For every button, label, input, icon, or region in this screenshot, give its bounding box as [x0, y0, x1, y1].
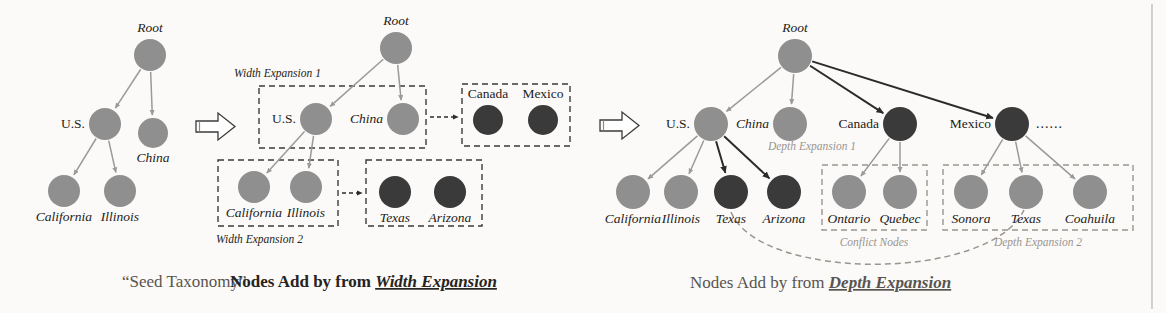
node-label-width-expansion-Illinois: Illinois [286, 205, 325, 220]
node-label-depth-expansion-US: U.S. [666, 116, 690, 131]
caption-depth: Nodes Add by from Depth Expansion [690, 273, 951, 292]
node-label-depth-expansion-Ontario: Ontario [828, 211, 871, 226]
node-label-seed-Illinois: Illinois [100, 209, 139, 224]
node-depth-expansion-China[interactable] [773, 107, 807, 141]
node-depth-expansion-US[interactable] [694, 107, 728, 141]
node-width-expansion-Illinois[interactable] [290, 171, 322, 203]
node-depth-expansion-Coahuila[interactable] [1073, 175, 1107, 209]
node-label-width-expansion-California: California [226, 205, 283, 220]
node-label-depth-expansion-China: China [736, 116, 769, 131]
node-label-depth-expansion-Coahuila: Coahuila [1065, 211, 1116, 226]
taxonomy-expansion-diagram: RootU.S.ChinaCaliforniaIllinoisWidth Exp… [0, 0, 1166, 313]
node-width-expansion-China[interactable] [387, 103, 419, 135]
node-label-depth-expansion-TexasUS: Texas [716, 211, 746, 226]
node-label-width-expansion-Canada: Canada [468, 86, 508, 101]
node-label-seed-China: China [136, 150, 169, 165]
node-label-seed-Root: Root [136, 20, 164, 35]
node-label-width-expansion-Root: Root [382, 13, 410, 28]
node-label-depth-expansion-Quebec: Quebec [879, 211, 920, 226]
node-depth-expansion-Arizona[interactable] [767, 175, 801, 209]
node-label-depth-expansion-Sonora: Sonora [951, 211, 990, 226]
caption-width: Nodes Add by from Width Expansion [230, 272, 497, 291]
node-label-depth-expansion-Root: Root [781, 20, 809, 35]
node-depth-expansion-TexasMX[interactable] [1009, 175, 1043, 209]
ellipsis-more-nodes: ...... [1036, 116, 1063, 131]
node-label-depth-expansion-California: California [605, 211, 662, 226]
node-seed-Illinois[interactable] [104, 175, 136, 207]
node-width-expansion-Arizona[interactable] [434, 176, 466, 208]
depth-expansion-2-box-label: Depth Expansion 2 [993, 236, 1082, 249]
node-depth-expansion-California[interactable] [616, 175, 650, 209]
node-label-depth-expansion-Mexico: Mexico [950, 116, 991, 131]
width-expansion-1-box-label: Width Expansion 1 [234, 67, 321, 80]
conflict-nodes-box-label: Conflict Nodes [840, 236, 909, 249]
node-label-width-expansion-US: U.S. [272, 111, 296, 126]
node-width-expansion-Texas[interactable] [379, 176, 411, 208]
node-seed-Root[interactable] [134, 39, 166, 71]
caption-width-emphasis: Width Expansion [375, 272, 497, 291]
node-depth-expansion-Mexico[interactable] [995, 107, 1029, 141]
node-label-seed-California: California [36, 209, 93, 224]
width-expansion-2-box-label: Width Expansion 2 [216, 233, 303, 246]
node-label-seed-US: U.S. [61, 116, 85, 131]
node-width-expansion-Canada[interactable] [473, 105, 503, 135]
node-label-width-expansion-China: China [350, 111, 383, 126]
node-width-expansion-California[interactable] [238, 171, 270, 203]
node-width-expansion-Mexico[interactable] [528, 105, 558, 135]
annotation-depth-expansion-1-label: Depth Expansion 1 [767, 140, 856, 153]
node-depth-expansion-TexasUS[interactable] [714, 175, 748, 209]
node-seed-China[interactable] [138, 118, 168, 148]
node-depth-expansion-Root[interactable] [778, 39, 812, 73]
node-seed-California[interactable] [48, 175, 80, 207]
node-depth-expansion-Quebec[interactable] [883, 175, 917, 209]
node-label-width-expansion-Arizona: Arizona [428, 210, 472, 225]
node-label-depth-expansion-Arizona: Arizona [762, 211, 806, 226]
node-label-depth-expansion-Illinois: Illinois [661, 211, 700, 226]
node-label-width-expansion-Texas: Texas [380, 210, 410, 225]
paper-background [0, 0, 1166, 313]
node-depth-expansion-Ontario[interactable] [832, 175, 866, 209]
node-depth-expansion-Canada[interactable] [883, 107, 917, 141]
node-label-depth-expansion-TexasMX: Texas [1011, 211, 1041, 226]
caption-width-prefix: Nodes Add by from [230, 272, 375, 291]
caption-depth-prefix: Nodes Add by from [690, 273, 829, 292]
node-seed-US[interactable] [89, 108, 121, 140]
node-depth-expansion-Sonora[interactable] [954, 175, 988, 209]
figure-canvas: RootU.S.ChinaCaliforniaIllinoisWidth Exp… [0, 0, 1166, 313]
caption-seed: “Seed Taxonomy” [122, 272, 247, 291]
node-label-width-expansion-Mexico: Mexico [522, 86, 563, 101]
caption-depth-emphasis: Depth Expansion [828, 273, 951, 292]
node-label-depth-expansion-Canada: Canada [839, 116, 879, 131]
node-width-expansion-Root[interactable] [380, 32, 412, 64]
node-width-expansion-US[interactable] [300, 103, 332, 135]
node-depth-expansion-Illinois[interactable] [664, 175, 698, 209]
